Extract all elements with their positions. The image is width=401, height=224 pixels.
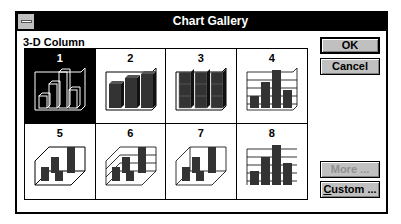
gallery-option-2[interactable]: 2 (96, 49, 167, 124)
system-menu-icon (21, 20, 32, 23)
option-number: 7 (166, 127, 236, 139)
option-number: 8 (237, 127, 308, 139)
chart-thumbnail-icon (245, 141, 299, 189)
chart-type-label: 3-D Column (23, 36, 85, 48)
gallery-option-6[interactable]: 6 (96, 124, 167, 199)
custom-label: ustom ... (331, 183, 376, 195)
chart-thumbnail-icon (174, 141, 228, 189)
custom-button[interactable]: Custom ... (320, 181, 380, 198)
more-button[interactable]: More ... (320, 161, 380, 178)
gallery-option-7[interactable]: 7 (166, 124, 237, 199)
ok-button[interactable]: OK (320, 37, 380, 54)
option-number: 3 (166, 52, 236, 64)
chart-gallery-dialog: Chart Gallery 3-D Column 1 2 (15, 11, 388, 214)
gallery-option-5[interactable]: 5 (25, 124, 96, 199)
option-number: 1 (25, 52, 95, 64)
gallery-option-8[interactable]: 8 (237, 124, 308, 199)
dialog-title: Chart Gallery (35, 13, 386, 30)
chart-thumbnail-icon (33, 141, 87, 189)
option-number: 4 (237, 52, 308, 64)
system-menu-button[interactable] (18, 14, 35, 29)
chart-thumbnail-icon (174, 66, 228, 114)
option-number: 2 (96, 52, 166, 64)
option-number: 6 (96, 127, 166, 139)
cancel-button[interactable]: Cancel (320, 58, 380, 75)
chart-thumbnail-icon (104, 66, 158, 114)
chart-thumbnail-icon (33, 66, 87, 114)
chart-gallery-grid: 1 2 3 (24, 48, 308, 200)
gallery-option-4[interactable]: 4 (237, 49, 308, 124)
chart-thumbnail-icon (104, 141, 158, 189)
title-bar[interactable]: Chart Gallery (17, 13, 386, 31)
gallery-option-3[interactable]: 3 (166, 49, 237, 124)
gallery-option-1[interactable]: 1 (25, 49, 96, 124)
option-number: 5 (25, 127, 95, 139)
chart-thumbnail-icon (245, 66, 299, 114)
